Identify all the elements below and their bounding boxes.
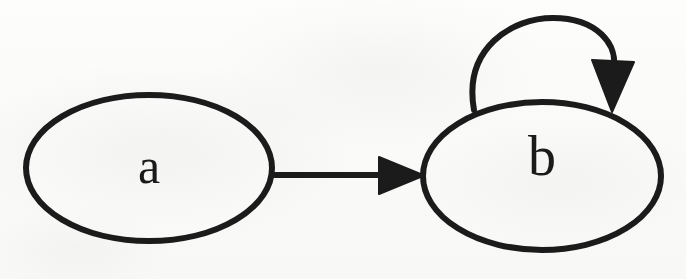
- node-b-label: b: [506, 128, 578, 184]
- state-diagram: [0, 0, 686, 279]
- diagram-canvas: a b: [0, 0, 686, 279]
- edge-a-to-b[interactable]: [271, 157, 424, 194]
- edge-b-to-b[interactable]: [472, 18, 634, 112]
- node-a-label: a: [113, 141, 185, 191]
- edge-a-to-b-arrowhead: [379, 157, 424, 194]
- edge-b-to-b-arrowhead: [592, 60, 634, 112]
